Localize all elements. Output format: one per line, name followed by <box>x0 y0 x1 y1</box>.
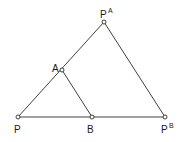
label-PB-base: P <box>161 124 168 135</box>
vertex-B <box>90 115 94 119</box>
edge-PA-PB <box>104 22 165 117</box>
label-PB-sup: B <box>169 122 174 129</box>
triangle-diagram: P B P B A P A <box>0 0 184 142</box>
edge-A-B <box>62 70 92 117</box>
vertex-A <box>60 68 64 72</box>
label-PA-sup: A <box>108 7 113 14</box>
label-A: A <box>52 63 59 74</box>
vertex-PB <box>163 115 167 119</box>
vertex-P <box>16 115 20 119</box>
vertex-PA <box>102 20 106 24</box>
label-B: B <box>87 124 94 135</box>
label-PA-base: P <box>100 9 107 20</box>
label-P: P <box>14 124 21 135</box>
